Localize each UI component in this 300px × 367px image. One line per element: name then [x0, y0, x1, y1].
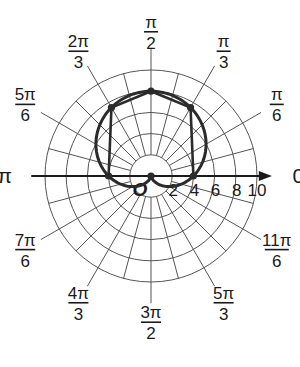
- svg-text:2: 2: [146, 324, 155, 343]
- radial-line-255deg: [124, 196, 146, 278]
- radial-line-285deg: [156, 196, 178, 278]
- svg-text:3: 3: [74, 53, 83, 72]
- radius-tick-label: 8: [232, 181, 241, 200]
- svg-text:3: 3: [219, 53, 228, 72]
- svg-text:6: 6: [272, 252, 281, 271]
- svg-text:5π: 5π: [15, 85, 36, 104]
- angle-label-300: 5π3: [213, 284, 234, 324]
- angle-label-30: π6: [270, 85, 284, 125]
- radial-line-195deg: [49, 181, 131, 203]
- data-point: [108, 104, 115, 111]
- svg-text:2π: 2π: [68, 32, 89, 51]
- svg-text:6: 6: [21, 252, 30, 271]
- arrow-icon: [259, 171, 272, 181]
- svg-text:3: 3: [74, 305, 83, 324]
- radius-tick-label: 10: [248, 181, 267, 200]
- radial-line-15deg: [171, 149, 253, 171]
- data-point: [105, 172, 112, 179]
- radius-tick-label: 6: [211, 181, 220, 200]
- polar-plot-svg: 246810O 0π6π3π22π35π6π7π64π33π25π311π6: [0, 0, 300, 367]
- radius-tick-label: 2: [168, 181, 177, 200]
- angle-label-270: 3π2: [140, 303, 161, 343]
- angle-label-330: 11π6: [262, 231, 291, 271]
- polar-graph: 246810O 0π6π3π22π35π6π7π64π33π25π311π6: [0, 0, 300, 367]
- radial-line-165deg: [49, 149, 131, 171]
- svg-text:2: 2: [146, 34, 155, 53]
- radial-line-225deg: [76, 191, 136, 251]
- angle-label-90: π2: [144, 13, 158, 53]
- svg-text:7π: 7π: [15, 231, 36, 250]
- data-point: [147, 88, 154, 95]
- svg-text:4π: 4π: [68, 284, 89, 303]
- data-point: [187, 104, 194, 111]
- svg-text:3π: 3π: [140, 303, 161, 322]
- radius-tick-label: 4: [190, 181, 199, 200]
- data-point: [190, 172, 197, 179]
- svg-text:π: π: [218, 32, 230, 51]
- angle-label-120: 2π3: [68, 32, 89, 72]
- angle-label-180: π: [0, 164, 12, 187]
- svg-text:π: π: [271, 85, 283, 104]
- svg-text:6: 6: [21, 106, 30, 125]
- angle-label-210: 7π6: [15, 231, 36, 271]
- radial-line-45deg: [166, 101, 226, 161]
- svg-text:3: 3: [219, 305, 228, 324]
- svg-text:6: 6: [272, 106, 281, 125]
- data-point: [147, 172, 154, 179]
- radial-line-75deg: [156, 74, 178, 156]
- angle-label-150: 5π6: [15, 85, 36, 125]
- radial-line-135deg: [76, 101, 136, 161]
- angle-label-60: π3: [217, 32, 231, 72]
- svg-text:π: π: [145, 13, 157, 32]
- angle-label-240: 4π3: [68, 284, 89, 324]
- radial-line-105deg: [124, 74, 146, 156]
- angle-label-0: 0: [292, 164, 300, 187]
- svg-text:11π: 11π: [262, 231, 291, 250]
- svg-text:5π: 5π: [213, 284, 234, 303]
